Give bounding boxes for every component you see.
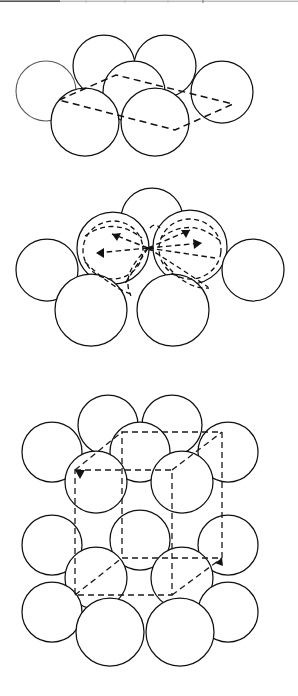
sphere (121, 88, 189, 156)
sphere (51, 88, 119, 156)
sphere (151, 451, 213, 513)
sphere (22, 582, 82, 642)
sphere (222, 239, 284, 301)
sphere (65, 451, 127, 513)
sphere (77, 212, 149, 284)
sphere-group-front-row (55, 274, 209, 346)
panel-interstitial-sites (0, 180, 298, 380)
sphere (146, 598, 214, 666)
sphere (55, 274, 127, 346)
figure-root: Close-packed sphere arrangements Three s… (0, 0, 298, 696)
panel-fcc-unit-cell (0, 380, 298, 696)
sphere (191, 61, 253, 123)
panel-close-packed-layer-rhombus (0, 0, 298, 180)
sphere (137, 274, 209, 346)
sphere (76, 598, 144, 666)
sphere-group-bottom-front-pair (76, 598, 214, 666)
sphere (153, 210, 227, 284)
